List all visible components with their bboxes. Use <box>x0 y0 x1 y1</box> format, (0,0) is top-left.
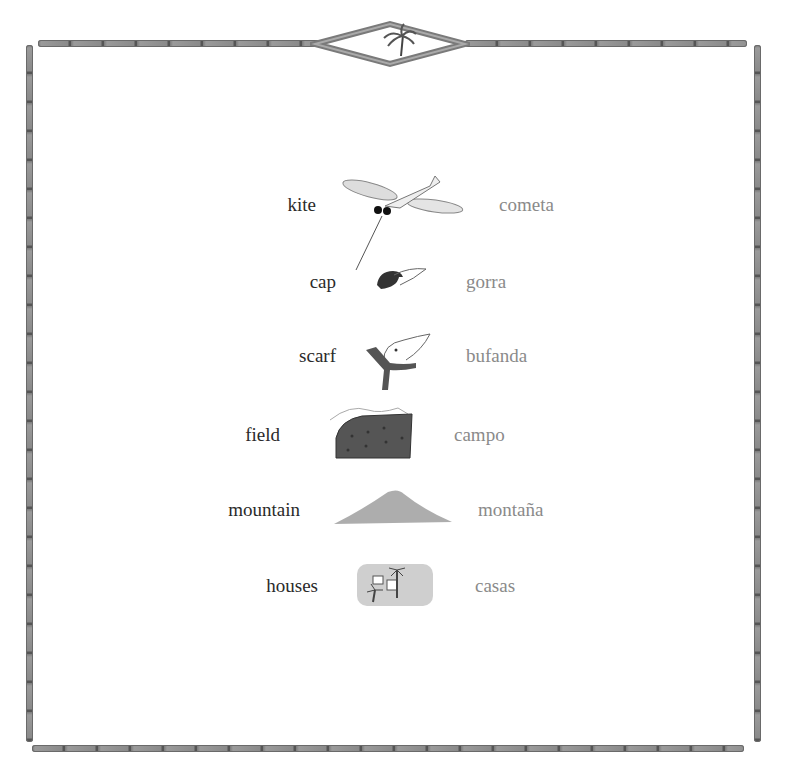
spanish-word: bufanda <box>466 346 527 365</box>
english-word: houses <box>240 576 318 595</box>
spanish-word: campo <box>454 425 505 444</box>
mosquito-kite-icon <box>340 168 470 273</box>
english-word: mountain <box>200 500 300 519</box>
frame-top-left <box>38 40 320 47</box>
english-word: cap <box>266 272 336 291</box>
palm-tree-icon <box>310 20 470 68</box>
spanish-word: cometa <box>499 195 554 214</box>
field-icon <box>322 402 422 460</box>
mountain-icon <box>332 488 454 526</box>
frame-right <box>754 45 761 742</box>
frame-top-right <box>465 40 747 47</box>
spanish-word: montaña <box>478 500 543 519</box>
frame-left <box>26 45 33 742</box>
english-word: scarf <box>262 346 336 365</box>
mouse-in-cap-icon <box>372 265 432 300</box>
spanish-word: gorra <box>466 272 506 291</box>
mouse-with-scarf-icon <box>362 332 432 390</box>
spanish-word: casas <box>475 576 515 595</box>
english-word: kite <box>240 195 316 214</box>
village-houses-icon <box>355 560 437 608</box>
english-word: field <box>220 425 280 444</box>
frame-bottom <box>32 745 744 752</box>
